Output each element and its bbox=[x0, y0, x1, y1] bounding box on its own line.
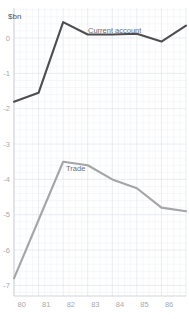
x-axis-tick-label: 86 bbox=[165, 300, 173, 309]
y-axis-tick-label: -6 bbox=[3, 246, 10, 255]
chart-container: $bn 0-1-2-3-4-5-6-7 8081828384858687 Cur… bbox=[0, 0, 189, 319]
y-axis-tick-label: 0 bbox=[6, 34, 10, 43]
x-axis-tick-label: 82 bbox=[67, 300, 75, 309]
y-axis-tick-label: -1 bbox=[3, 69, 10, 78]
x-axis-tick-label: 81 bbox=[42, 300, 50, 309]
y-axis-tick-label: -3 bbox=[3, 140, 10, 149]
x-axis-tick-label: 80 bbox=[18, 300, 26, 309]
y-axis-tick-label: -4 bbox=[3, 175, 10, 184]
series-label-trade: Trade bbox=[66, 164, 85, 173]
x-axis-tick-label: 85 bbox=[140, 300, 148, 309]
line-chart: $bn 0-1-2-3-4-5-6-7 8081828384858687 Cur… bbox=[0, 0, 189, 319]
y-axis-tick-label: -2 bbox=[3, 104, 10, 113]
y-axis-tick-label: -5 bbox=[3, 210, 10, 219]
y-axis-unit-label: $bn bbox=[8, 12, 21, 21]
series-label-current-account: Current account bbox=[88, 26, 142, 35]
y-axis-tick-label: -7 bbox=[3, 281, 10, 290]
x-axis-tick-label: 83 bbox=[91, 300, 99, 309]
x-axis-tick-label: 84 bbox=[116, 300, 124, 309]
